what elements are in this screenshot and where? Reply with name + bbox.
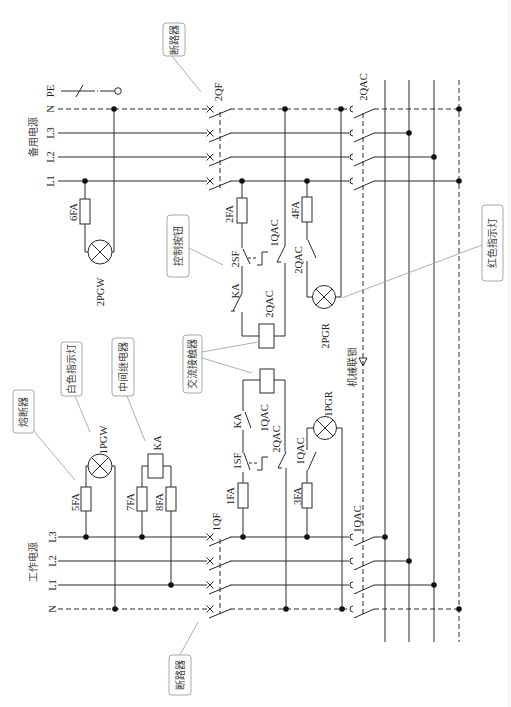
line-label-pe: PE	[45, 85, 56, 97]
line-label-l2-bottom: L2	[47, 555, 58, 567]
line-label-l2-top: L2	[45, 151, 56, 163]
lamp-icon	[314, 417, 337, 440]
label-1qf: 1QF	[211, 513, 222, 532]
callout-red-lamp: 红色指示灯	[482, 205, 503, 281]
label-2qac-lamp: 2QAC	[293, 246, 304, 273]
svg-text:红色指示灯: 红色指示灯	[486, 218, 498, 268]
contact-2qac-nc	[278, 452, 286, 468]
lamp-icon	[313, 286, 336, 309]
white-lamp-circuit-top	[80, 109, 114, 264]
contact-ka-bottom	[245, 412, 251, 428]
svg-text:控制按钮: 控制按钮	[172, 226, 184, 266]
line-label-l3-top: L3	[45, 127, 56, 139]
label-ka-top: KA	[230, 283, 241, 299]
callout-breaker-bottom: 断路器	[169, 655, 191, 695]
label-1qac-nc: 1QAC	[269, 219, 280, 246]
mechanical-interlock-label: 机械联锁	[346, 347, 358, 387]
red-lamp-circuit-bottom	[302, 417, 342, 610]
label-2pgw: 2PGW	[95, 278, 106, 307]
contact-arc-icon	[350, 106, 353, 184]
dual-power-transfer-diagram: 断路器 控制按钮 交流接触器 白色指示灯 中间继电器 熔断器 红色指示灯 断路器…	[0, 0, 511, 707]
label-1fa: 1FA	[225, 487, 236, 505]
callout-breaker-top: 断路器	[163, 23, 185, 56]
contactor-1qac-main	[350, 534, 374, 618]
label-2sf: 2SF	[230, 250, 241, 267]
pe-line	[61, 85, 121, 97]
breaker-2qf	[207, 106, 232, 191]
line-label-l1-bottom: L1	[47, 579, 58, 591]
lamp-icon	[88, 454, 112, 478]
working-power-lines	[58, 537, 459, 609]
label-3fa: 3FA	[292, 487, 303, 505]
label-7fa: 7FA	[125, 493, 136, 511]
push-button-2sf	[243, 249, 268, 265]
label-ka-bottom: KA	[232, 413, 243, 429]
callout-white-lamp: 白色指示灯	[61, 342, 82, 396]
line-label-l1-top: L1	[45, 175, 56, 187]
junction-dots	[82, 106, 462, 612]
red-lamp-circuit-top	[302, 109, 341, 309]
label-5fa: 5FA	[70, 493, 81, 511]
callout-ac-contactor: 交流接触器	[183, 335, 202, 393]
svg-text:交流接触器: 交流接触器	[186, 339, 198, 389]
label-1pgr: 1PGR	[323, 391, 334, 417]
fuse-1fa	[238, 483, 248, 508]
coil-1qac	[260, 369, 274, 393]
relay-ka-circuit	[137, 454, 176, 585]
svg-text:白色指示灯: 白色指示灯	[65, 344, 77, 394]
label-ka-relay: KA	[152, 435, 163, 451]
fuse-6fa	[80, 199, 90, 224]
contactor-2qac-main	[350, 106, 374, 190]
callout-fuse: 熔断器	[13, 390, 34, 433]
label-1qac-lamp: 1QAC	[295, 437, 306, 464]
label-1pgw: 1PGW	[98, 426, 109, 455]
line-label-l3-bottom: L3	[47, 531, 58, 543]
relay-ka-coil	[148, 454, 163, 478]
working-power-label: 工作电源	[27, 542, 39, 582]
callout-control-button: 控制按钮	[167, 215, 189, 277]
backup-power-lines	[58, 85, 459, 181]
contact-1qac-nc	[277, 246, 285, 262]
label-2qac-coil: 2QAC	[264, 290, 275, 317]
callout-leaders	[33, 56, 482, 655]
callout-intermediate-relay: 中间继电器	[112, 338, 134, 396]
label-2qf: 2QF	[213, 83, 224, 102]
label-6fa: 6FA	[68, 203, 79, 221]
label-2pgr: 2PGR	[320, 323, 331, 349]
label-4fa: 4FA	[290, 201, 301, 219]
white-lamp-circuit-bottom	[81, 454, 115, 609]
fuse-8fa	[166, 487, 176, 511]
backup-power-label: 备用电源	[27, 117, 39, 157]
pe-terminal-icon	[115, 88, 122, 95]
contact-2qac-lamp	[308, 240, 316, 258]
svg-text:中间继电器: 中间继电器	[117, 342, 129, 392]
label-1qac-main: 1QAC	[352, 505, 363, 532]
contactor-blades	[354, 537, 374, 618]
label-2qac-main: 2QAC	[358, 73, 369, 100]
svg-text:断路器: 断路器	[174, 660, 186, 690]
label-1qac-coil: 1QAC	[259, 404, 270, 431]
coil-2qac	[259, 324, 274, 348]
svg-text:断路器: 断路器	[168, 25, 180, 55]
fuse-2fa	[237, 198, 247, 223]
line-label-n-bottom: N	[47, 605, 58, 613]
svg-text:熔断器: 熔断器	[17, 397, 29, 427]
output-bus	[385, 80, 459, 642]
label-1sf: 1SF	[232, 452, 243, 469]
label-2fa: 2FA	[224, 205, 235, 223]
line-label-n-top: N	[45, 105, 56, 113]
lamp-icon	[88, 240, 112, 264]
fuse-5fa	[81, 487, 91, 511]
contact-1qac-lamp	[308, 452, 316, 470]
contactor-blades	[354, 109, 374, 190]
fuse-4fa	[302, 197, 312, 222]
push-button-1sf	[244, 453, 268, 470]
label-8fa: 8FA	[154, 493, 165, 511]
fuse-7fa	[137, 487, 147, 511]
fuse-3fa	[302, 483, 312, 508]
breaker-1qf	[207, 534, 232, 619]
label-2qac-nc: 2QAC	[271, 425, 282, 452]
contact-arc-icon	[350, 534, 353, 612]
